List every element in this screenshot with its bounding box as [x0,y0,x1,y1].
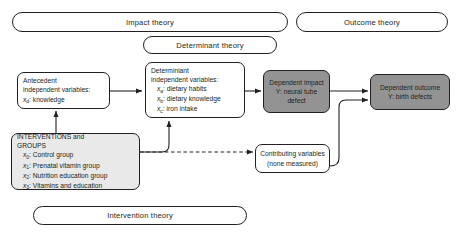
bubble-determinant-theory-label: Determinant theory [176,41,243,50]
bubble-outcome-theory[interactable]: Outcome theory [296,12,448,32]
interventions-var-0-text: : Control group [29,151,73,158]
node-interventions-and-groups[interactable]: INTERVENTIONS and GROUPS x0: Control gro… [11,133,140,190]
bubble-intervention-theory[interactable]: Intervention theory [33,206,247,225]
interventions-var-3-subscript: 3 [26,185,29,190]
node-dependent-impact[interactable]: Dependent impact Y: neural tube defect [263,70,330,113]
interventions-group-1: x1: Prenatal vitamin group [17,161,134,171]
determiniant-var-b-subscript: b [160,99,163,104]
antecedent-variable-d: xd: knowledge [23,95,104,105]
dependent-outcome-line-1: Dependent outcome [371,83,449,92]
interventions-group-3: x3: Vitamins and education [17,181,134,191]
dependent-outcome-line-2: Y: birth defects [371,92,449,101]
interventions-var-3-text: : Vitamins and education [29,182,102,189]
antecedent-var-subscript: d [26,99,29,104]
diagram-canvas: Impact theory Outcome theory Determinant… [0,0,461,239]
determiniant-var-c-text: : iron intake [163,105,198,112]
determiniant-variable-c: xc: iron intake [151,104,239,114]
dependent-impact-line-1: Dependent impact [264,78,329,87]
interventions-line-1: INTERVENTIONS and [17,132,134,141]
interventions-var-2-text: : Nutrition education group [29,172,107,179]
determiniant-var-b-text: : dietary knowledge [163,95,221,102]
determiniant-line-1: Determiniant [151,66,239,75]
bubble-impact-theory[interactable]: Impact theory [12,12,288,32]
node-determiniant-variables[interactable]: Determiniant independent variables: xa: … [145,62,245,118]
contributing-line-1: Contributing variables [256,149,329,158]
determiniant-line-2: independent variables: [151,75,239,84]
determiniant-variable-a: xa: dietary habits [151,84,239,94]
edge-interventions-to-determiniant [140,121,169,152]
interventions-var-0-subscript: 0 [26,155,29,160]
dependent-impact-line-2: Y: neural tube [264,87,329,96]
node-contributing-variables[interactable]: Contributing variables (none measured) [255,144,330,173]
antecedent-line-1: Antecedent [23,76,104,85]
interventions-var-1-subscript: 1 [26,165,29,170]
interventions-line-2: GROUPS [17,141,134,150]
bubble-outcome-theory-label: Outcome theory [344,18,400,27]
interventions-var-1-text: : Prenatal vitamin group [29,162,100,169]
determiniant-variable-b: xb: dietary knowledge [151,94,239,104]
dependent-impact-line-3: defect [264,96,329,105]
bubble-intervention-theory-label: Intervention theory [107,211,173,220]
interventions-group-2: x2: Nutrition education group [17,171,134,181]
determiniant-var-c-subscript: c [160,109,162,114]
antecedent-line-2: independent variables: [23,85,104,94]
contributing-line-2: (none measured) [256,159,329,168]
edge-contributing-to-outcome [330,100,368,166]
bubble-impact-theory-label: Impact theory [126,18,174,27]
bubble-determinant-theory[interactable]: Determinant theory [143,36,277,54]
determiniant-var-a-text: : dietary habits [163,85,207,92]
antecedent-var-text: : knowledge [29,96,65,103]
interventions-var-2-subscript: 2 [26,175,29,180]
determiniant-var-a-subscript: a [160,89,163,94]
interventions-group-0: x0: Control group [17,150,134,160]
node-dependent-outcome[interactable]: Dependent outcome Y: birth defects [370,74,450,110]
node-antecedent-variables[interactable]: Antecedent independent variables: xd: kn… [17,72,110,109]
